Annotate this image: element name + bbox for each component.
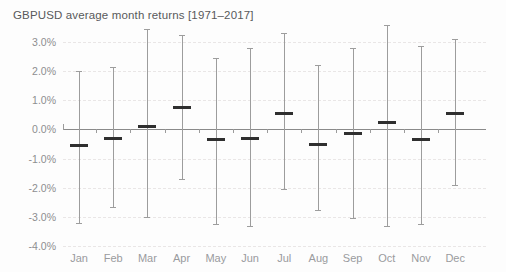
x-axis-tick (199, 129, 200, 133)
x-axis-tick (165, 129, 166, 133)
y-axis-tick-label: -1.0% (10, 153, 56, 165)
whisker-cap-low (213, 224, 219, 225)
average-return-marker (344, 132, 362, 135)
x-axis-tick (301, 129, 302, 133)
whisker-cap-high (384, 25, 390, 26)
whisker-cap-low (418, 224, 424, 225)
whisker-cap-high (76, 71, 82, 72)
y-axis-tick-label: 1.0% (10, 94, 56, 106)
y-axis-tick-label: 0.0% (10, 123, 56, 135)
x-axis-tick (96, 129, 97, 133)
whisker-cap-high (144, 29, 150, 30)
chart-screenshot: GBPUSD average month returns [1971–2017]… (0, 0, 506, 272)
whisker-cap-low (350, 218, 356, 219)
average-return-marker (241, 137, 259, 140)
y-axis-tick-label: -3.0% (10, 211, 56, 223)
whisker-cap-high (350, 48, 356, 49)
range-whisker (387, 25, 388, 226)
whisker-cap-low (315, 210, 321, 211)
gridline (63, 246, 486, 247)
zero-axis-line (63, 129, 486, 130)
average-return-marker (309, 143, 327, 146)
x-axis-tick (267, 129, 268, 133)
gridline (63, 188, 486, 189)
average-return-marker (173, 106, 191, 109)
whisker-cap-high (418, 46, 424, 47)
average-return-marker (412, 138, 430, 141)
average-return-marker (138, 125, 156, 128)
y-axis-tick-label: -4.0% (10, 240, 56, 252)
whisker-cap-high (110, 67, 116, 68)
average-return-marker (104, 137, 122, 140)
x-axis-tick (404, 129, 405, 133)
range-whisker (421, 46, 422, 224)
whisker-cap-low (281, 189, 287, 190)
whisker-cap-low (452, 185, 458, 186)
whisker-cap-low (76, 223, 82, 224)
x-axis-tick (370, 129, 371, 133)
whisker-cap-low (384, 226, 390, 227)
chart-plot-area: 3.0%2.0%1.0%0.0%-1.0%-2.0%-3.0%-4.0%JanF… (0, 0, 506, 272)
gridline (63, 159, 486, 160)
y-axis-tick-label: 2.0% (10, 65, 56, 77)
whisker-cap-low (247, 226, 253, 227)
average-return-marker (70, 144, 88, 147)
gridline (63, 71, 486, 72)
whisker-cap-low (179, 179, 185, 180)
whisker-cap-high (179, 35, 185, 36)
whisker-cap-high (281, 33, 287, 34)
whisker-cap-low (144, 217, 150, 218)
x-axis-tick-label: Dec (435, 252, 475, 264)
range-whisker (318, 65, 319, 209)
gridline (63, 217, 486, 218)
whisker-cap-low (110, 207, 116, 208)
x-axis-tick (233, 129, 234, 133)
gridline (63, 42, 486, 43)
y-axis-tick-label: -2.0% (10, 182, 56, 194)
whisker-cap-high (213, 58, 219, 59)
axis-left-tick (63, 124, 64, 130)
y-axis-tick-label: 3.0% (10, 36, 56, 48)
x-axis-tick (336, 129, 337, 133)
average-return-marker (378, 121, 396, 124)
whisker-cap-high (315, 65, 321, 66)
whisker-cap-high (247, 48, 253, 49)
average-return-marker (207, 138, 225, 141)
x-axis-tick (130, 129, 131, 133)
x-axis-tick (438, 129, 439, 133)
whisker-cap-high (452, 39, 458, 40)
range-whisker (147, 29, 148, 217)
average-return-marker (275, 112, 293, 115)
gridline (63, 100, 486, 101)
average-return-marker (446, 112, 464, 115)
